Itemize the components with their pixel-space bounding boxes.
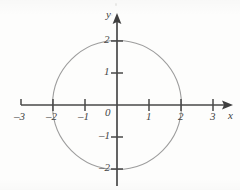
y-tick-label-1: 1 (104, 66, 110, 77)
y-tick-label-2: 2 (104, 34, 110, 45)
x-tick-label--3: –3 (14, 111, 25, 122)
y-tick-label--2: –2 (99, 162, 110, 173)
graph-figure: –3 –2 –1 1 2 3 2 1 –1 –2 0 y x (0, 0, 240, 190)
x-axis-label: x (228, 110, 233, 121)
y-axis-label: y (106, 9, 111, 20)
x-tick-label--1: –1 (78, 111, 89, 122)
x-tick-label-3: 3 (210, 111, 216, 122)
x-tick-label-1: 1 (146, 111, 152, 122)
x-tick-label--2: –2 (46, 111, 57, 122)
coordinate-plane (0, 0, 240, 190)
origin-label: 0 (105, 107, 111, 118)
y-tick-label--1: –1 (99, 130, 110, 141)
x-tick-label-2: 2 (178, 111, 184, 122)
